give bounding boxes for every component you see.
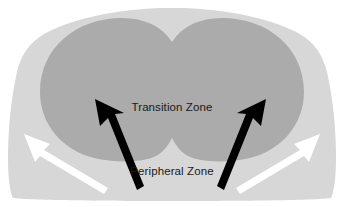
transition-zone-label: Transition Zone <box>132 101 213 113</box>
peripheral-zone-label: Peripheral Zone <box>130 165 213 177</box>
prostate-zone-diagram: Transition Zone Peripheral Zone <box>0 0 344 207</box>
diagram-canvas: Transition Zone Peripheral Zone <box>0 0 344 207</box>
